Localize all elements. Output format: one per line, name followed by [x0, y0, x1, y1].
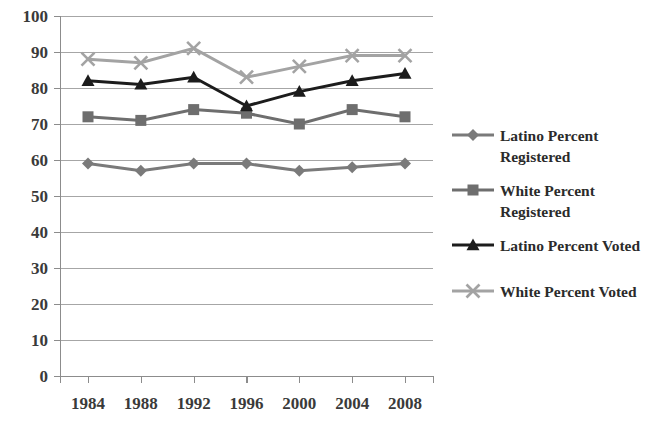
legend-label-line2: Registered: [500, 203, 571, 220]
x-tick-label-1988: 1988: [124, 394, 158, 413]
y-tick-label-10: 10: [31, 331, 48, 350]
y-tick-label-80: 80: [31, 79, 48, 98]
x-tick-label-2000: 2000: [282, 394, 316, 413]
x-tick-label-1992: 1992: [177, 394, 211, 413]
x-tick-label-1984: 1984: [71, 394, 106, 413]
square-marker: [83, 111, 94, 122]
square-marker: [400, 111, 411, 122]
square-marker: [468, 185, 479, 196]
square-marker: [135, 115, 146, 126]
legend-label-line2: Registered: [500, 148, 571, 165]
y-tick-label-90: 90: [31, 43, 48, 62]
y-tick-label-70: 70: [31, 115, 48, 134]
y-tick-label-40: 40: [31, 223, 48, 242]
square-marker: [347, 104, 358, 115]
x-tick-label-1996: 1996: [230, 394, 264, 413]
square-marker: [294, 119, 305, 130]
line-chart: 0102030405060708090100 19841988199219962…: [0, 0, 666, 426]
legend-label-line1: White Percent Voted: [500, 283, 637, 300]
y-tick-label-20: 20: [31, 295, 48, 314]
y-tick-label-100: 100: [23, 7, 49, 26]
x-tick-label-2004: 2004: [335, 394, 370, 413]
square-marker: [188, 104, 199, 115]
y-tick-label-30: 30: [31, 259, 48, 278]
x-tick-label-2008: 2008: [388, 394, 422, 413]
legend-label-line1: Latino Percent Voted: [500, 237, 640, 254]
legend-label-line1: Latino Percent: [500, 127, 599, 144]
chart-container: 0102030405060708090100 19841988199219962…: [0, 0, 666, 426]
legend-label-line1: White Percent: [500, 182, 596, 199]
y-tick-label-0: 0: [40, 367, 49, 386]
y-tick-label-60: 60: [31, 151, 48, 170]
y-tick-label-50: 50: [31, 187, 48, 206]
